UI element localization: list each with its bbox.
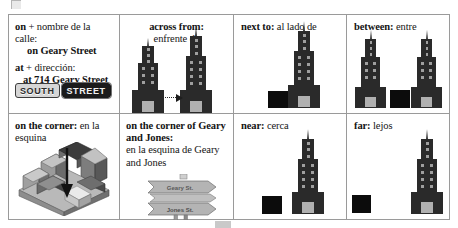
- black-box-between: [390, 90, 410, 108]
- term-between: between:: [354, 21, 393, 32]
- crossroads-signpost: Geary St. Jones St.: [142, 174, 224, 220]
- term-on-the-corner: on the corner:: [15, 120, 77, 131]
- gloss-at: + dirección:: [24, 62, 76, 73]
- isometric-city-block: [15, 142, 113, 216]
- gloss-far: lejos: [373, 120, 392, 131]
- cell-next-to: next to: al lado de: [234, 15, 346, 113]
- figure-root: on + nombre de la calle: on Geary Street…: [0, 0, 458, 228]
- term-near: near:: [241, 120, 264, 131]
- building-right: [178, 35, 214, 113]
- prepositions-table: on + nombre de la calle: on Geary Street…: [8, 14, 450, 220]
- black-box-far: [352, 195, 371, 213]
- top-left-artifact: [11, 0, 21, 9]
- cell-on-at: on + nombre de la calle: on Geary Street…: [9, 15, 119, 113]
- black-box-next-to: [268, 91, 288, 108]
- cell-across-from: across from: enfrente de: [120, 15, 233, 113]
- across-arrow-line: [156, 97, 178, 98]
- term-far: far:: [354, 120, 371, 131]
- cell-between: between: entre: [347, 15, 451, 113]
- term-on-the-corner-of: on the corner of Geary and Jones:: [126, 120, 230, 144]
- building-left: [130, 45, 166, 113]
- term-across-from: across from:: [124, 21, 229, 33]
- gloss-between: entre: [396, 21, 417, 32]
- gloss-on-the-corner-of: en la esquina de Geary and Jones: [126, 144, 230, 168]
- gloss-near: cerca: [267, 120, 289, 131]
- building-between-left: [355, 38, 387, 108]
- gloss-on: + nombre de la calle:: [15, 21, 90, 44]
- sign-south: SOUTH: [15, 83, 60, 98]
- building-near: [290, 138, 326, 214]
- street-name-signs: SOUTH STREET: [15, 83, 111, 98]
- building-far: [409, 138, 445, 214]
- cell-on-the-corner-of: on the corner of Geary and Jones: en la …: [120, 114, 233, 220]
- svg-text:Geary St.: Geary St.: [167, 185, 194, 191]
- building-between-right: [411, 38, 443, 108]
- building-next-to: [286, 30, 322, 108]
- svg-text:Jones St.: Jones St.: [167, 207, 194, 213]
- cell-on-the-corner: on the corner: en la esquina: [9, 114, 119, 220]
- cell-near: near: cerca: [234, 114, 346, 220]
- term-on: on: [15, 21, 26, 32]
- black-box-near: [262, 196, 282, 214]
- example-on-geary: on Geary Street: [27, 45, 96, 56]
- term-at: at: [15, 62, 24, 73]
- term-next-to: next to:: [241, 21, 274, 32]
- sign-street: STREET: [62, 83, 111, 98]
- bottom-center-artifact: [215, 221, 231, 228]
- across-arrow-head: [176, 94, 183, 102]
- cell-far: far: lejos: [347, 114, 451, 220]
